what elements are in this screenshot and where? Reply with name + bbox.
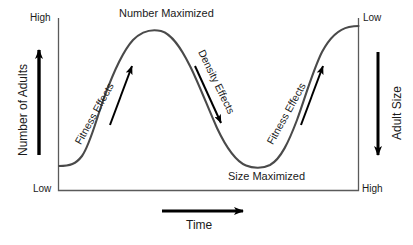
left-axis-tick-low: Low [33, 184, 51, 194]
left-axis-tick-high: High [30, 13, 51, 23]
left-axis-title: Number of Adults [17, 64, 29, 156]
right-axis-title: Adult Size [391, 86, 403, 140]
right-axis-tick-high: High [362, 184, 383, 194]
annotation-size-maximized: Size Maximized [228, 171, 305, 182]
annotation-number-maximized: Number Maximized [119, 8, 214, 19]
bottom-axis-title: Time [186, 219, 212, 231]
diagram-canvas [0, 0, 413, 245]
right-axis-tick-low: Low [363, 13, 381, 23]
population-size-tradeoff-diagram: Number Maximized Size Maximized High Low… [0, 0, 413, 245]
